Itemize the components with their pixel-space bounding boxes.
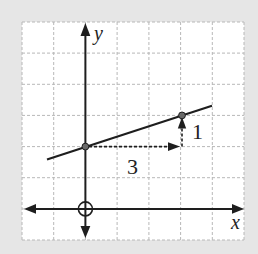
point-second	[179, 112, 186, 119]
x-axis-label: x	[230, 211, 240, 233]
point-y-intercept	[82, 143, 89, 150]
y-axis-label: y	[92, 22, 103, 45]
coordinate-plane: y x 3 1	[0, 0, 258, 254]
run-label: 3	[127, 154, 138, 179]
rise-label: 1	[192, 119, 203, 144]
